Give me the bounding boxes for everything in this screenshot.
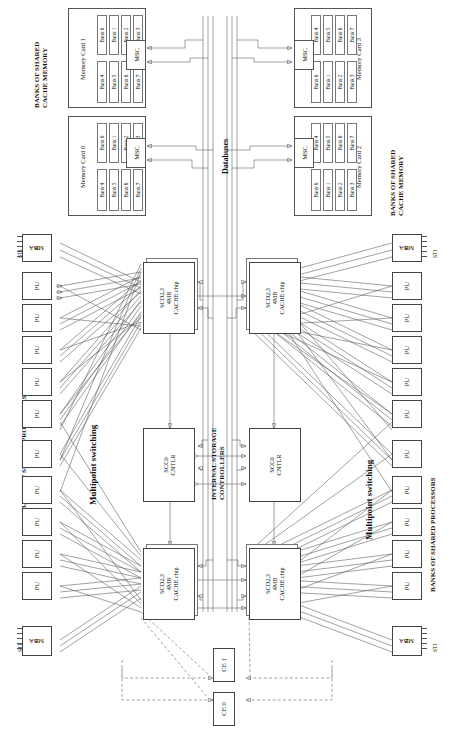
bank: Bank 6: [335, 123, 345, 163]
pu-label: PU: [34, 346, 41, 354]
sti-label-3: STI: [432, 250, 438, 258]
msc-card-2[interactable]: MSC: [294, 138, 314, 168]
pu-left-8[interactable]: PU: [22, 508, 52, 536]
storage-controller-left[interactable]: SCC0 CNTLR: [143, 428, 195, 502]
pu-right-8[interactable]: PU: [392, 508, 422, 536]
controller-right-label: SCC0 CNTLR: [268, 455, 282, 476]
sti-comb-3: [422, 236, 427, 260]
pu-right-4[interactable]: PU: [392, 368, 422, 396]
bank: Bank 5: [109, 61, 119, 103]
pu-left-10[interactable]: PU: [22, 572, 52, 600]
cache-chip-bottom-left[interactable]: SCD2,3 4MB CACHE chip: [143, 548, 195, 620]
label-banks-shared-processors-right: BANKS OF SHARED PROCESSORS: [430, 477, 438, 592]
chip-line3: CACHE chip: [278, 281, 285, 314]
pu-left-7[interactable]: PU: [22, 476, 52, 504]
pu-label: PU: [404, 410, 411, 418]
mba-3[interactable]: MBA 3: [392, 234, 422, 262]
label-multipoint-switching-left: Multipoint switching: [89, 425, 99, 505]
pu-right-7[interactable]: PU: [392, 476, 422, 504]
msc-label: MSC: [301, 146, 308, 160]
bank: Bank 4: [97, 61, 107, 103]
cache-chip-top-right[interactable]: SCD2,3 4MB CACHE chip: [249, 262, 301, 334]
memory-left-line2: CACHE MEMORY: [42, 42, 50, 108]
cache-chip-top-left[interactable]: SCD2,3 4MB CACHE chip: [143, 262, 195, 334]
bank: Bank 0: [311, 169, 321, 211]
pu-label: PU: [34, 410, 41, 418]
pu-right-3[interactable]: PU: [392, 336, 422, 364]
bank: Bank 0: [97, 123, 107, 163]
cache-chip-top-left-label: SCD2,3 4MB CACHE chip: [159, 281, 179, 314]
sti-comb-1: [17, 628, 22, 654]
pu-label: PU: [34, 486, 41, 494]
pu-right-1[interactable]: PU: [392, 272, 422, 300]
pu-label: PU: [34, 282, 41, 290]
chip-line3: CACHE chip: [172, 567, 179, 600]
pu-label: PU: [404, 314, 411, 322]
label-databuses: Databuses: [222, 139, 231, 174]
channel-element-1[interactable]: CE 1: [213, 648, 235, 682]
sti-label-2: STI: [432, 644, 438, 652]
cache-chip-bottom-right[interactable]: SCD2,3 4MB CACHE chip: [249, 548, 301, 620]
memory-card-1-name: Memory Card 1: [80, 38, 87, 80]
cntlr-line2: CNTLR: [169, 455, 176, 476]
pu-right-5[interactable]: PU: [392, 400, 422, 428]
cache-chip-bottom-left-label: SCD2,3 4MB CACHE chip: [159, 567, 179, 600]
channel-element-0[interactable]: CE 0: [213, 692, 235, 726]
cache-chip-bottom-right-label: SCD2,3 4MB CACHE chip: [265, 567, 285, 600]
bank: Bank 0: [97, 15, 107, 55]
bank: Bank 1: [323, 169, 333, 211]
pu-left-6[interactable]: PU: [22, 440, 52, 468]
label-internal-storage-controllers: INTERNAL STORAGE CONTROLLERS: [211, 428, 226, 500]
pu-left-9[interactable]: PU: [22, 540, 52, 568]
ce-0-label: CE 0: [221, 702, 228, 715]
bank: Bank 2: [335, 169, 345, 211]
pu-left-4[interactable]: PU: [22, 368, 52, 396]
mba-1[interactable]: MBA 1: [22, 626, 52, 656]
sti-comb-0: [17, 236, 22, 260]
cntlr-line2: CNTLR: [275, 455, 282, 476]
cache-chip-top-right-label: SCD2,3 4MB CACHE chip: [265, 281, 285, 314]
mba-2[interactable]: MBA 2: [392, 626, 422, 656]
pu-right-2[interactable]: PU: [392, 304, 422, 332]
bank: Bank 3: [347, 169, 357, 211]
storage-controller-right[interactable]: SCC0 CNTLR: [249, 428, 301, 502]
bank: Bank 5: [109, 169, 119, 211]
msc-card-0[interactable]: MSC: [126, 138, 146, 168]
pu-label: PU: [34, 518, 41, 526]
pu-label: PU: [404, 486, 411, 494]
pu-label: PU: [404, 518, 411, 526]
pu-label: PU: [34, 314, 41, 322]
label-banks-shared-cache-memory-right: BANKS OF SHARED CACHE MEMORY: [390, 150, 405, 216]
mba-0[interactable]: MBA 0: [22, 234, 52, 262]
pu-label: PU: [34, 582, 41, 590]
sti-comb-2: [422, 628, 427, 654]
pu-label: PU: [34, 378, 41, 386]
memory-card-0-name: Memory Card 0: [80, 146, 87, 188]
pu-label: PU: [404, 282, 411, 290]
controller-left-label: SCC0 CNTLR: [162, 455, 176, 476]
pu-left-5[interactable]: PU: [22, 400, 52, 428]
bank: Bank 1: [323, 61, 333, 103]
diagram-canvas: Memory Card 1 Bank 0 Bank 1 Bank 2 Bank …: [0, 0, 454, 730]
cntlr-line1: SCC0: [162, 455, 169, 476]
bank: Bank 2: [335, 61, 345, 103]
msc-card-3[interactable]: MSC: [294, 40, 314, 70]
ce-1-label: CE 1: [221, 658, 228, 671]
pu-left-3[interactable]: PU: [22, 336, 52, 364]
pu-label: PU: [404, 346, 411, 354]
pu-left-1[interactable]: PU: [22, 272, 52, 300]
bank: Bank 5: [323, 15, 333, 55]
pu-label: PU: [404, 582, 411, 590]
memory-right-line2: CACHE MEMORY: [398, 150, 406, 216]
chip-line3: CACHE chip: [278, 567, 285, 600]
pu-label: PU: [404, 450, 411, 458]
bank: Bank 7: [347, 123, 357, 163]
pu-right-9[interactable]: PU: [392, 540, 422, 568]
bank: Bank 6: [121, 169, 131, 211]
pu-right-10[interactable]: PU: [392, 572, 422, 600]
msc-label: MSC: [133, 146, 140, 160]
msc-card-1[interactable]: MSC: [126, 40, 146, 70]
pu-right-6[interactable]: PU: [392, 440, 422, 468]
pu-label: PU: [404, 550, 411, 558]
pu-left-2[interactable]: PU: [22, 304, 52, 332]
